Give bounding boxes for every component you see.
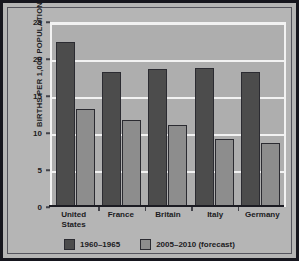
bar [241, 72, 260, 207]
x-tick-label-line: Italy [192, 210, 238, 220]
y-tick-label: 15 [12, 92, 42, 101]
legend-label: 1960–1965 [80, 240, 120, 249]
legend-item: 2005–2010 (forecast) [140, 239, 235, 250]
y-tick-label: 10 [12, 129, 42, 138]
bar-group [241, 24, 280, 207]
chart-legend: 1960–19652005–2010 (forecast) [8, 239, 291, 250]
x-tick-label: Britain [145, 210, 191, 229]
x-axis-baseline [49, 205, 284, 207]
bar [148, 69, 167, 207]
bar-group [148, 24, 187, 207]
legend-swatch [140, 239, 151, 250]
bar-group [56, 24, 95, 207]
bar [76, 109, 95, 207]
legend-item: 1960–1965 [64, 239, 120, 250]
x-tick-label-line: Germany [239, 210, 285, 220]
bar [195, 68, 214, 207]
x-tick-label-line: States [51, 220, 97, 230]
y-tick-label: 20 [12, 55, 42, 64]
x-tick-label: UnitedStates [51, 210, 97, 229]
x-tick-label: Germany [239, 210, 285, 229]
bar-group [102, 24, 141, 207]
x-tick-label: France [98, 210, 144, 229]
x-tick-label-line: France [98, 210, 144, 220]
bar-group [195, 24, 234, 207]
x-tick-label: Italy [192, 210, 238, 229]
y-tick-label: 0 [12, 203, 42, 212]
legend-swatch [64, 239, 75, 250]
x-tick-label-line: Britain [145, 210, 191, 220]
y-tick-label: 5 [12, 166, 42, 175]
chart-figure: BIRTHS PER 1,000 POPULATION 0510152025 U… [0, 0, 299, 261]
bar [122, 120, 141, 207]
bar [261, 143, 280, 207]
plot-wrap [50, 22, 286, 207]
legend-label: 2005–2010 (forecast) [156, 240, 235, 249]
figure-inner-frame: BIRTHS PER 1,000 POPULATION 0510152025 U… [7, 7, 292, 254]
bars-layer [52, 24, 284, 207]
bar [168, 125, 187, 207]
x-axis-labels: UnitedStatesFranceBritainItalyGermany [50, 210, 286, 229]
bar [56, 42, 75, 207]
y-tick-label: 25 [12, 18, 42, 27]
x-tick-label-line: United [51, 210, 97, 220]
bar [215, 139, 234, 207]
bar [102, 72, 121, 207]
plot-area [50, 22, 286, 207]
